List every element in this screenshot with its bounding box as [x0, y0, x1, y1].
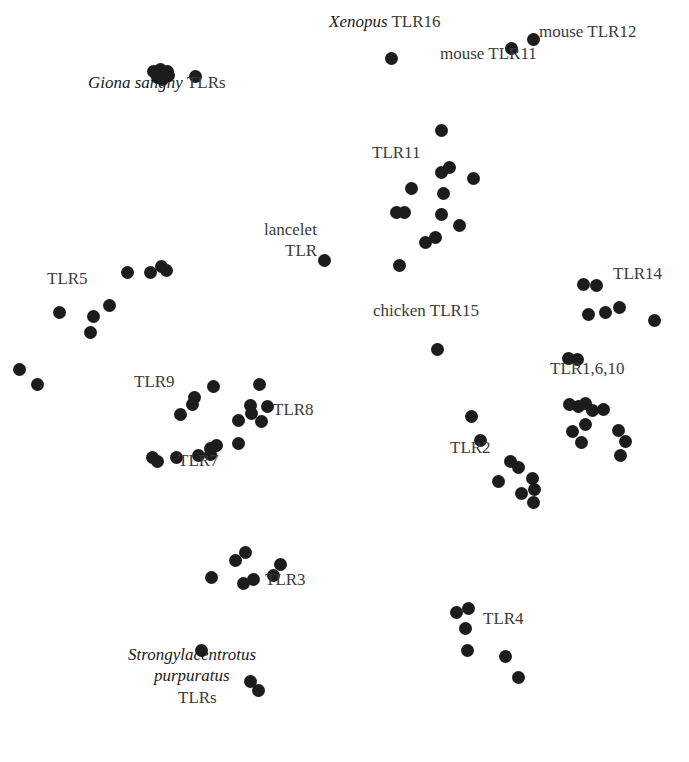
label-text: TLR1,6,10 — [550, 359, 625, 378]
data-point — [160, 264, 173, 277]
data-point — [205, 571, 218, 584]
data-point — [435, 208, 448, 221]
cluster-label-tlr5: TLR5 — [47, 269, 88, 288]
data-point — [207, 380, 220, 393]
data-point — [53, 306, 66, 319]
data-point — [31, 378, 44, 391]
label-text: lancelet — [264, 220, 317, 239]
data-point — [151, 455, 164, 468]
cluster-label-lancelet2: TLR — [285, 241, 317, 260]
cluster-label-spur2: purpuratus — [154, 666, 230, 685]
label-text: TLR3 — [265, 570, 306, 589]
label-text: TLR14 — [613, 264, 662, 283]
data-point — [253, 378, 266, 391]
data-point — [174, 408, 187, 421]
data-point — [261, 400, 274, 413]
label-text: TLR — [285, 241, 317, 260]
data-point — [467, 172, 480, 185]
data-point — [453, 219, 466, 232]
data-point — [318, 254, 331, 267]
data-point — [577, 278, 590, 291]
data-point — [492, 475, 505, 488]
species-name: Giona sangny — [88, 73, 183, 92]
cluster-label-mouse12: mouse TLR12 — [539, 22, 636, 41]
data-point — [566, 425, 579, 438]
cluster-label-spur1: Strongylacentrotus — [128, 645, 256, 664]
data-point — [579, 418, 592, 431]
cluster-label-lancelet1: lancelet — [264, 220, 317, 239]
data-point — [393, 259, 406, 272]
data-point — [515, 487, 528, 500]
data-point — [512, 461, 525, 474]
data-point — [465, 410, 478, 423]
cluster-label-tlr8: TLR8 — [273, 400, 314, 419]
data-point — [186, 398, 199, 411]
data-point — [405, 182, 418, 195]
cluster-label-tlr2: TLR2 — [450, 438, 491, 457]
species-name: Strongylacentrotus — [128, 645, 256, 664]
cluster-label-tlr14: TLR14 — [613, 264, 662, 283]
cluster-label-xenopus: Xenopus TLR16 — [329, 12, 441, 31]
data-point — [87, 310, 100, 323]
data-point — [528, 483, 541, 496]
label-text: TLRs — [178, 688, 217, 707]
cluster-label-chicken: chicken TLR15 — [373, 301, 479, 320]
label-text: TLR11 — [372, 143, 420, 162]
cluster-label-tlr7: TLR7 — [178, 451, 219, 470]
data-point — [398, 206, 411, 219]
data-point — [461, 644, 474, 657]
data-point — [459, 622, 472, 635]
data-point — [385, 52, 398, 65]
data-point — [239, 546, 252, 559]
data-point — [252, 684, 265, 697]
label-text: mouse TLR12 — [539, 22, 636, 41]
data-point — [499, 650, 512, 663]
cluster-label-tlr3: TLR3 — [265, 570, 306, 589]
data-point — [435, 124, 448, 137]
data-point — [429, 231, 442, 244]
label-text: chicken TLR15 — [373, 301, 479, 320]
data-point — [13, 363, 26, 376]
data-point — [619, 435, 632, 448]
data-point — [599, 306, 612, 319]
data-point — [274, 558, 287, 571]
data-point — [590, 279, 603, 292]
data-point — [121, 266, 134, 279]
tlr-cluster-diagram: Giona sangny TLRsXenopus TLR16mouse TLR1… — [0, 0, 689, 762]
data-point — [247, 573, 260, 586]
label-text: TLR8 — [273, 400, 314, 419]
data-point — [450, 606, 463, 619]
label-text: TLR16 — [388, 12, 441, 31]
cluster-label-tlr1610: TLR1,6,10 — [550, 359, 625, 378]
data-point — [613, 301, 626, 314]
label-text: TLR4 — [483, 609, 524, 628]
cluster-label-giona: Giona sangny TLRs — [88, 73, 226, 92]
cluster-label-tlr4: TLR4 — [483, 609, 524, 628]
cluster-label-spur3: TLRs — [178, 688, 217, 707]
data-point — [84, 326, 97, 339]
data-point — [443, 161, 456, 174]
species-name: Xenopus — [329, 12, 388, 31]
data-point — [582, 308, 595, 321]
species-name: purpuratus — [154, 666, 230, 685]
data-point — [255, 415, 268, 428]
data-point — [597, 403, 610, 416]
data-point — [232, 437, 245, 450]
label-text: mouse TLR11 — [440, 44, 537, 63]
data-point — [512, 671, 525, 684]
label-text: TLRs — [183, 73, 226, 92]
data-point — [437, 187, 450, 200]
data-point — [232, 414, 245, 427]
data-point — [103, 299, 116, 312]
cluster-label-tlr11: TLR11 — [372, 143, 420, 162]
cluster-label-mouse11: mouse TLR11 — [440, 44, 537, 63]
label-text: TLR7 — [178, 451, 219, 470]
cluster-label-tlr9: TLR9 — [134, 372, 175, 391]
data-point — [648, 314, 661, 327]
data-point — [527, 496, 540, 509]
label-text: TLR9 — [134, 372, 175, 391]
data-point — [462, 602, 475, 615]
label-text: TLR2 — [450, 438, 491, 457]
label-text: TLR5 — [47, 269, 88, 288]
data-point — [575, 436, 588, 449]
